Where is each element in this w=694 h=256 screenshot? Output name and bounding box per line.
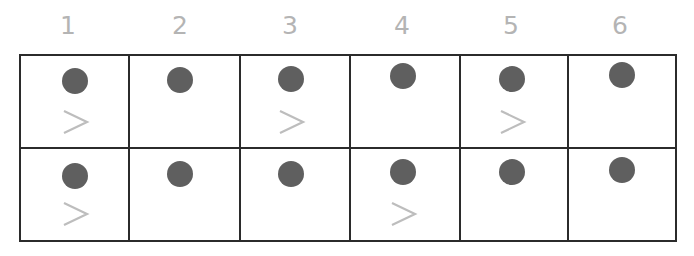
dot-icon (609, 157, 635, 183)
column-label-1: 1 (48, 8, 88, 44)
grid-table (19, 54, 677, 242)
dot-icon (62, 163, 88, 189)
row-divider (21, 147, 675, 149)
dot-icon (390, 159, 416, 185)
column-label-4: 4 (382, 8, 422, 44)
column-label-6: 6 (600, 8, 640, 44)
dot-icon (609, 62, 635, 88)
dot-icon (62, 68, 88, 94)
dot-icon (167, 67, 193, 93)
chevron-right-icon (277, 108, 307, 136)
column-label-2: 2 (160, 8, 200, 44)
chevron-right-icon (61, 108, 91, 136)
column-label-5: 5 (491, 8, 531, 44)
chevron-right-icon (61, 200, 91, 228)
chevron-right-icon (389, 200, 419, 228)
dot-icon (167, 161, 193, 187)
dot-icon (278, 66, 304, 92)
dot-icon (499, 66, 525, 92)
chevron-right-icon (498, 108, 528, 136)
column-label-3: 3 (270, 8, 310, 44)
dot-icon (278, 161, 304, 187)
dot-icon (390, 63, 416, 89)
dot-icon (499, 159, 525, 185)
